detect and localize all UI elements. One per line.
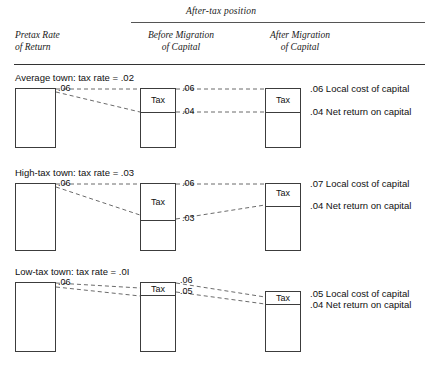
bar-r1-after: Tax <box>265 88 301 148</box>
value-r1-before-top: .06 <box>182 83 195 93</box>
header-col-before-line1: Before Migration <box>134 30 228 42</box>
header-col-before-line2: of Capital <box>134 42 228 54</box>
legend-r3-top: .05 Local cost of capital <box>310 288 409 299</box>
bar-r3-before-split <box>141 295 175 296</box>
bar-r1-before-split <box>141 112 175 113</box>
bar-r2-before: Tax <box>140 183 176 251</box>
row-label-average-town: Average town: tax rate = .02 <box>15 72 134 83</box>
legend-r3-top-value: .05 <box>310 288 323 299</box>
legend-r2-split-text: Net return on capital <box>326 200 412 211</box>
connector-r1-pretax-to-before-split <box>56 92 140 112</box>
header-col-pretax-line2: of Return <box>15 42 60 54</box>
bar-r1-pretax <box>15 88 56 148</box>
header-bottom-rule <box>14 64 425 65</box>
legend-r3-top-text: Local cost of capital <box>326 288 409 299</box>
header-col-pretax-line1: Pretax Rate <box>15 30 60 42</box>
legend-r2-split-value: .04 <box>310 200 323 211</box>
legend-r1-split: .04 Net return on capital <box>310 106 411 117</box>
bar-r2-pretax <box>15 183 56 251</box>
legend-r1-top-value: .06 <box>310 83 323 94</box>
legend-r3-split-text: Net return on capital <box>326 299 412 310</box>
bar-r3-pretax <box>15 282 56 352</box>
legend-r1-split-value: .04 <box>310 106 323 117</box>
bar-r3-after-split <box>266 304 300 305</box>
bar-r3-before-tax-label: Tax <box>141 284 175 294</box>
legend-r2-split: .04 Net return on capital <box>310 200 411 211</box>
bar-r1-before-tax-label: Tax <box>141 95 175 105</box>
legend-r3-split: .04 Net return on capital <box>310 299 411 310</box>
header-col-after-line2: of Capital <box>249 42 351 54</box>
connector-r3-pretax-to-before-split <box>56 287 140 296</box>
row-label-low-tax-town: Low-tax town: tax rate = .0I <box>15 266 129 277</box>
legend-r1-top-text: Local cost of capital <box>326 83 409 94</box>
bar-r2-after-split <box>266 206 300 207</box>
legend-r3-split-value: .04 <box>310 299 323 310</box>
bar-r3-after: Tax <box>265 291 301 352</box>
connector-r2-pretax-to-before-split <box>56 187 140 215</box>
bar-r2-before-split <box>141 220 175 221</box>
bar-r3-before: Tax <box>140 282 176 352</box>
header-col-after-migration: After Migration of Capital <box>249 30 351 53</box>
bar-r2-after: Tax <box>265 183 301 251</box>
value-r1-before-split: .04 <box>182 106 195 116</box>
legend-r2-top-value: .07 <box>310 178 323 189</box>
row-label-high-tax-town: High-tax town: tax rate = .03 <box>15 167 134 178</box>
header-group-title: After-tax position <box>186 6 256 16</box>
header-col-before-migration: Before Migration of Capital <box>134 30 228 53</box>
value-r2-before-top: .06 <box>182 178 195 188</box>
header-col-pretax: Pretax Rate of Return <box>15 30 60 53</box>
header-group-rule <box>131 22 425 23</box>
value-r2-pretax: .06 <box>58 178 71 188</box>
legend-r2-top: .07 Local cost of capital <box>310 178 409 189</box>
bar-r1-after-tax-label: Tax <box>266 95 300 105</box>
bar-r2-after-tax-label: Tax <box>266 188 300 198</box>
header-col-after-line1: After Migration <box>249 30 351 42</box>
figure-after-tax-position: After-tax position Pretax Rate of Return… <box>0 0 433 367</box>
legend-r2-top-text: Local cost of capital <box>326 178 409 189</box>
bar-r1-before: Tax <box>140 88 176 148</box>
value-r2-before-split: .03 <box>182 213 195 223</box>
legend-r1-top: .06 Local cost of capital <box>310 83 409 94</box>
bar-r3-after-tax-label: Tax <box>266 293 300 303</box>
bar-r2-before-tax-label: Tax <box>141 197 175 207</box>
value-r3-before-split: .05 <box>180 286 193 296</box>
value-r3-pretax: .06 <box>58 277 71 287</box>
legend-r1-split-text: Net return on capital <box>326 106 412 117</box>
bar-r1-after-split <box>266 112 300 113</box>
value-r3-before-top: .06 <box>180 275 193 285</box>
value-r1-pretax: .06 <box>58 83 71 93</box>
